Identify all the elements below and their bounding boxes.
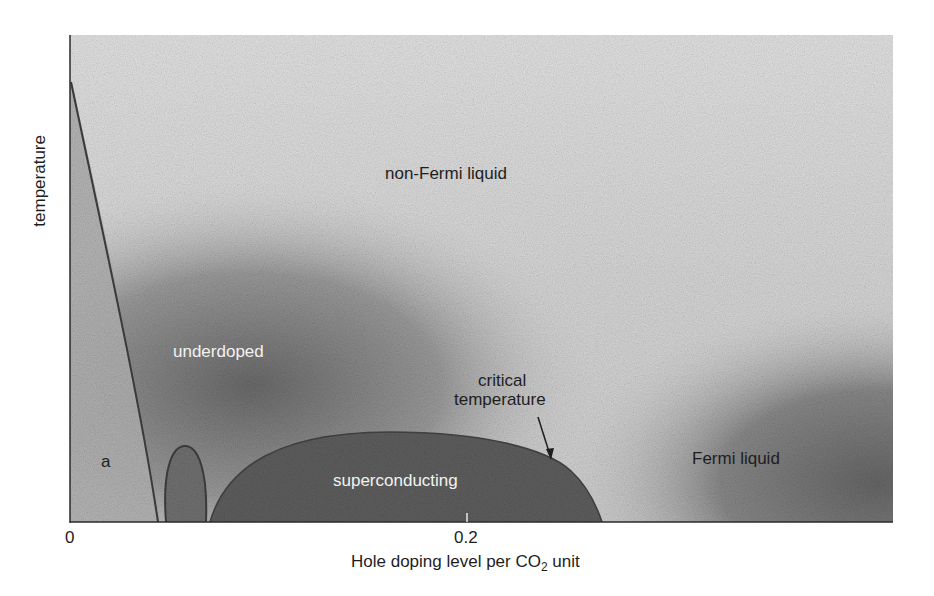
x-tick-label-0: 0 — [65, 528, 74, 548]
annotation-critical: critical — [478, 372, 526, 389]
x-axis-label: Hole doping level per CO2 unit — [351, 552, 580, 572]
phase-diagram-plot — [0, 0, 934, 596]
region-label-fermi-liquid: Fermi liquid — [692, 450, 780, 467]
region-label-non-fermi-liquid: non-Fermi liquid — [385, 165, 507, 182]
region-label-a: a — [101, 453, 110, 470]
region-label-superconducting: superconducting — [333, 472, 458, 489]
x-axis-label-main: Hole doping level per CO — [351, 552, 541, 571]
y-axis-label: temperature — [30, 135, 50, 227]
x-axis-label-suffix: unit — [548, 552, 580, 571]
x-tick-label-0-2: 0.2 — [454, 528, 478, 548]
phase-diagram-figure: temperature 0 0.2 Hole doping level per … — [0, 0, 934, 596]
annotation-temperature: temperature — [454, 391, 546, 408]
region-label-underdoped: underdoped — [173, 343, 264, 360]
x-axis-label-subscript: 2 — [541, 560, 548, 574]
